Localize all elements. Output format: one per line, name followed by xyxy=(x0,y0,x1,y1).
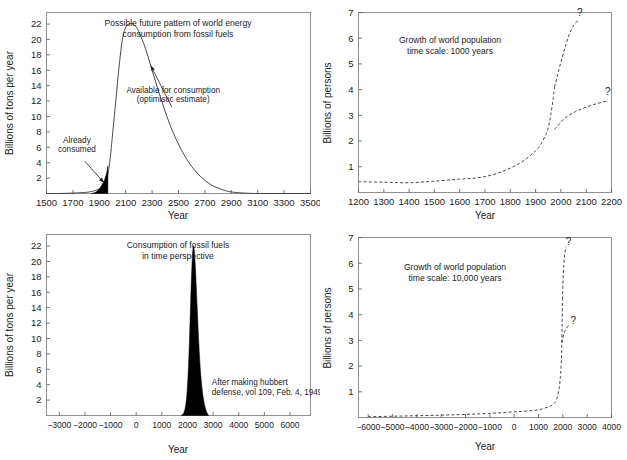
annotation-line1: Available for consumption xyxy=(126,86,220,95)
chart-title-line1: Consumption of fossil fuels xyxy=(127,240,230,250)
x-tick-label: 2000 xyxy=(550,196,571,207)
x-tick-label: 3500 xyxy=(300,197,320,208)
x-tick-label: 2100 xyxy=(115,197,136,208)
y-tick-label: 7 xyxy=(348,232,353,243)
series-historical xyxy=(359,87,555,183)
x-tick-label: 1300 xyxy=(373,196,394,207)
chart-title-line2: in time perspective xyxy=(142,251,214,261)
y-tick-label: 12 xyxy=(31,95,42,106)
annotation-arrow-head xyxy=(151,66,155,71)
y-tick-label: 16 xyxy=(31,287,42,298)
x-axis-title: Year xyxy=(168,444,189,455)
y-tick-label: 22 xyxy=(31,18,42,29)
x-tick-label: 1900 xyxy=(525,196,546,207)
y-tick-label: 4 xyxy=(36,379,41,390)
x-tick-label: 1700 xyxy=(62,197,83,208)
x-tick-labels: 1200130014001500160017001800190020002100… xyxy=(348,196,622,207)
y-tick-label: 1 xyxy=(348,161,353,172)
annotation-line2: (optimistic estimate) xyxy=(137,95,210,104)
x-tick-label: −3000 xyxy=(429,422,453,432)
chart-title-line1: Growth of world population xyxy=(404,262,506,272)
x-tick-label: −6000 xyxy=(356,422,380,432)
y-tick-label: 2 xyxy=(36,394,41,405)
y-tick-label: 18 xyxy=(31,49,42,60)
annotation-line2: consumed xyxy=(58,145,96,154)
x-tick-label: 1200 xyxy=(348,196,369,207)
y-tick-labels: 1234567 xyxy=(348,232,353,397)
chart-title-line2: time scale: 10,000 years xyxy=(408,273,501,283)
x-tick-label: 2200 xyxy=(601,196,622,207)
x-tick-labels: −6000−5000−4000−3000−2000−10000100020003… xyxy=(356,422,621,432)
y-tick-label: 10 xyxy=(31,333,42,344)
x-tick-label: 1700 xyxy=(474,196,495,207)
y-tick-label: 6 xyxy=(36,364,41,375)
source-note-line1: After making hubbert xyxy=(212,378,289,387)
y-tick-label: 8 xyxy=(36,126,41,137)
source-note-line2: defense, vol 109, Feb. 4, 1949 xyxy=(212,388,320,397)
y-tick-label: 6 xyxy=(348,258,353,269)
y-tick-label: 10 xyxy=(31,111,42,122)
series-available-for-consumption xyxy=(47,23,311,193)
annotation-line1: Already xyxy=(63,136,92,145)
chart-panel-world-population-1000: 1200130014001500160017001800190020002100… xyxy=(320,0,627,225)
x-tick-label: −1000 xyxy=(478,422,502,432)
y-tick-label: 3 xyxy=(348,110,353,121)
x-axis-title: Year xyxy=(168,210,189,221)
x-tick-label: −5000 xyxy=(380,422,404,432)
x-tick-label: 1900 xyxy=(89,197,110,208)
y-tick-label: 20 xyxy=(31,256,42,267)
y-tick-label: 14 xyxy=(31,80,42,91)
x-tick-label: 3100 xyxy=(247,197,268,208)
annotation-already-consumed: Already consumed xyxy=(58,136,104,183)
x-tick-label: 1400 xyxy=(399,196,420,207)
x-tick-label: 2000 xyxy=(178,420,197,430)
x-tick-label: 2000 xyxy=(553,422,572,432)
x-tick-label: 0 xyxy=(512,422,517,432)
x-tick-label: 3300 xyxy=(274,197,295,208)
y-tick-label: 2 xyxy=(348,360,353,371)
y-tick-labels: 1234567 xyxy=(348,7,353,172)
annotation-source-note: After making hubbert defense, vol 109, F… xyxy=(212,378,320,397)
y-axis-title: Billions of persons xyxy=(322,62,333,143)
y-tick-label: 18 xyxy=(31,271,42,282)
x-tick-label: 2500 xyxy=(168,197,189,208)
x-tick-label: −2000 xyxy=(73,420,97,430)
x-tick-label: 5000 xyxy=(255,420,274,430)
x-tick-label: −4000 xyxy=(405,422,429,432)
y-tick-label: 4 xyxy=(348,309,353,320)
y-tick-labels: 246810121416182022 xyxy=(31,18,42,183)
series-projection-low xyxy=(562,325,570,343)
y-tick-label: 1 xyxy=(348,386,353,397)
series-projection-high xyxy=(562,247,566,300)
x-tick-label: 1000 xyxy=(152,420,171,430)
x-tick-label: 2700 xyxy=(194,197,215,208)
y-axis-title: Billions of persons xyxy=(322,287,333,368)
series-projection-low xyxy=(555,101,607,129)
x-tick-labels: −3000−2000−10000100020003000400050006000 xyxy=(47,420,300,430)
x-tick-label: 2100 xyxy=(576,196,597,207)
chart-title-line2: time scale: 1000 years xyxy=(407,46,493,56)
chart-panel-fossil-fuel-future: 1500170019002100230025002700290031003300… xyxy=(0,0,320,225)
x-tick-label: −3000 xyxy=(47,420,71,430)
x-tick-label: 3000 xyxy=(578,422,597,432)
chart-title-line2: consumption from fossil fuels xyxy=(123,29,234,39)
y-tick-label: 6 xyxy=(348,33,353,44)
y-tick-label: 2 xyxy=(36,172,41,183)
x-tick-label: 1500 xyxy=(36,197,57,208)
y-axis-title: Billions of tons per year xyxy=(4,272,15,377)
x-axis-title: Year xyxy=(475,210,496,221)
chart-panel-world-population-10000: −6000−5000−4000−3000−2000−10000100020003… xyxy=(320,225,627,460)
chart-panel-fossil-fuel-perspective: −3000−2000−10000100020003000400050006000… xyxy=(0,225,320,460)
x-tick-label: 1800 xyxy=(500,196,521,207)
y-tick-label: 14 xyxy=(31,302,42,313)
annotation-available-for-consumption: Available for consumption (optimistic es… xyxy=(126,66,220,108)
x-tick-label: 1000 xyxy=(529,422,548,432)
axis-ticks xyxy=(47,24,311,193)
y-axis-title: Billions of tons per year xyxy=(4,50,15,155)
world-population-1000-svg: 1200130014001500160017001800190020002100… xyxy=(320,0,627,225)
fossil-fuel-future-svg: 1500170019002100230025002700290031003300… xyxy=(0,0,320,225)
y-tick-label: 5 xyxy=(348,283,353,294)
y-tick-label: 16 xyxy=(31,65,42,76)
world-population-10000-svg: −6000−5000−4000−3000−2000−10000100020003… xyxy=(320,225,627,460)
question-mark-high: ? xyxy=(566,236,572,247)
